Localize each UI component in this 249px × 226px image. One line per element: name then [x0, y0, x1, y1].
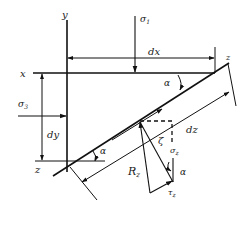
alpha-vector-label: α [180, 167, 186, 177]
alpha-vector-arc [168, 162, 171, 171]
z-top-label: z [225, 53, 231, 62]
z-bottom-label: z [34, 164, 41, 175]
alpha-top-label: α [164, 78, 170, 88]
sigma-z-dashed-component [140, 121, 172, 145]
y-axis-label: y [61, 9, 68, 20]
sigma3-label: σ3 [18, 99, 28, 110]
alpha-top-arc [178, 75, 181, 90]
dz-dimension-arrow [82, 92, 229, 182]
dz-extension-tick-bottom [70, 167, 97, 200]
resultant-rz-vector [140, 122, 150, 193]
sigma1-label: σ1 [140, 14, 150, 25]
alpha-bottom-arc [93, 151, 96, 161]
stress-element-diagram: y x z z σ1 σ3 dx dy dz α α α Rz σz τz ζ [0, 0, 249, 226]
sigma-z-label: σz [170, 146, 179, 156]
shear-direction-arrow [112, 109, 162, 140]
rz-label: Rz [127, 165, 140, 179]
angle-mark-label: ζ [158, 135, 164, 146]
alpha-bottom-label: α [100, 146, 106, 156]
dz-extension-tick-top [228, 64, 236, 106]
dz-label: dz [186, 124, 198, 135]
dx-label: dx [148, 46, 160, 57]
sigma-z-normal-line [140, 122, 173, 182]
inclined-plane-line [53, 63, 229, 176]
x-axis-label: x [20, 68, 26, 79]
dy-label: dy [47, 129, 59, 140]
tau-z-label: τz [168, 188, 176, 198]
diagram-canvas: y x z z σ1 σ3 dx dy dz α α α Rz σz τz ζ [0, 0, 249, 226]
